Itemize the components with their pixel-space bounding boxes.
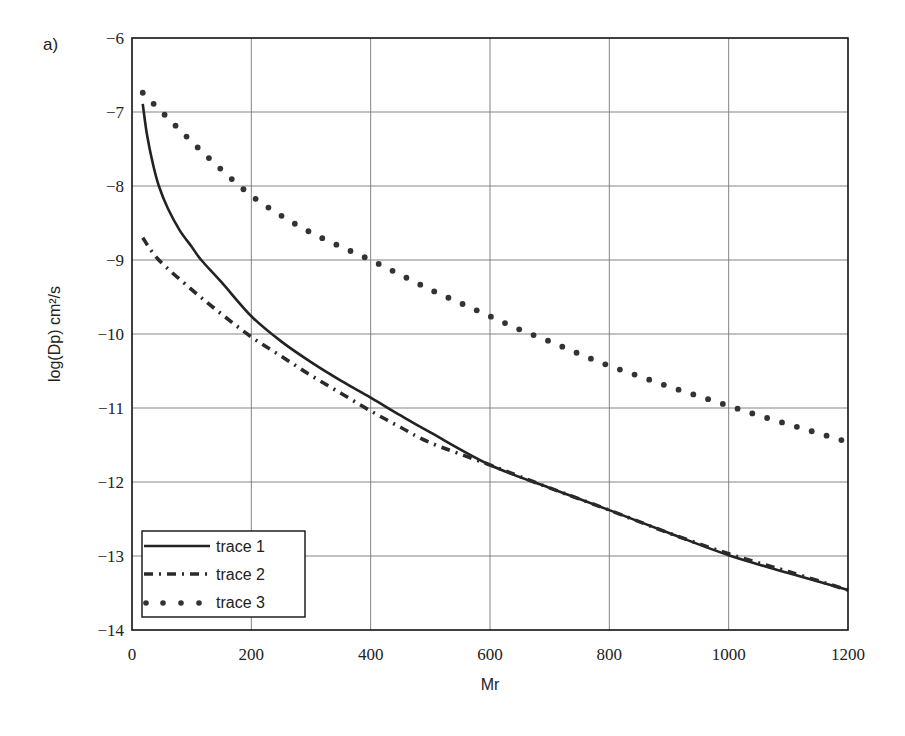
panel-label: a) <box>43 35 58 54</box>
legend: trace 1trace 2trace 3 <box>142 531 305 617</box>
trace-3-point <box>253 196 259 202</box>
legend-label: trace 1 <box>216 538 265 555</box>
trace-3-point <box>390 268 396 274</box>
trace-3-point <box>545 338 551 344</box>
trace-3-point <box>162 112 168 118</box>
trace-3-point <box>488 314 494 320</box>
series-trace-3 <box>140 90 848 443</box>
trace-3-point <box>151 101 157 107</box>
trace-3-point <box>460 301 466 307</box>
trace-3-point <box>602 361 608 367</box>
trace-3-point <box>431 289 437 295</box>
y-axis-label: log(Dp) cm²/s <box>46 286 63 382</box>
x-tick-label: 400 <box>358 645 384 664</box>
trace-3-point <box>516 326 522 332</box>
trace-3-point <box>559 344 565 350</box>
legend-swatch-dot <box>178 600 184 606</box>
trace-3-point <box>348 248 354 254</box>
trace-3-point <box>362 254 368 260</box>
y-tick-label: −11 <box>98 399 124 418</box>
trace-3-point <box>661 382 667 388</box>
trace-3-point <box>646 377 652 383</box>
x-tick-label: 800 <box>597 645 623 664</box>
y-tick-label: −14 <box>97 621 124 640</box>
x-tick-label: 1000 <box>712 645 746 664</box>
y-tick-label: −13 <box>97 547 124 566</box>
x-tick-label: 1200 <box>831 645 865 664</box>
trace-3-point <box>779 420 785 426</box>
trace-3-point <box>839 437 845 443</box>
trace-3-point <box>195 145 201 151</box>
y-tick-label: −10 <box>97 325 124 344</box>
trace-3-point <box>690 391 696 397</box>
trace-3-point <box>217 166 223 172</box>
y-axis-ticks: −6−7−8−9−10−11−12−13−14 <box>97 29 124 640</box>
trace-3-point <box>404 275 410 281</box>
trace-3-point <box>173 123 179 129</box>
x-axis-ticks: 020040060080010001200 <box>128 645 865 664</box>
trace-3-point <box>588 356 594 362</box>
trace-3-point <box>279 213 285 219</box>
trace-3-point <box>206 155 212 161</box>
legend-swatch-dot <box>160 600 166 606</box>
trace-3-point <box>140 90 146 96</box>
trace-3-point <box>333 242 339 248</box>
trace-3-point <box>266 205 272 211</box>
y-tick-label: −7 <box>106 103 125 122</box>
trace-3-point <box>417 282 423 288</box>
trace-3-point <box>764 415 770 421</box>
x-tick-label: 200 <box>239 645 265 664</box>
trace-3-point <box>502 320 508 326</box>
trace-3-point <box>809 428 815 434</box>
trace-3-point <box>705 396 711 402</box>
trace-3-point <box>632 372 638 378</box>
trace-3-point <box>574 350 580 356</box>
series-layer <box>140 90 848 590</box>
trace-3-point <box>229 176 235 182</box>
y-tick-label: −9 <box>106 251 124 270</box>
x-tick-label: 600 <box>477 645 503 664</box>
chart: a) 020040060080010001200 −6−7−8−9−10−11−… <box>0 0 905 736</box>
x-axis-label: Mr <box>481 676 500 693</box>
series-trace-1 <box>143 104 848 590</box>
trace-3-point <box>735 406 741 412</box>
trace-3-point <box>749 411 755 417</box>
trace-3-point <box>319 235 325 241</box>
trace-3-point <box>824 433 830 439</box>
trace-3-point <box>720 401 726 407</box>
trace-3-point <box>474 307 480 313</box>
trace-3-point <box>445 295 451 301</box>
y-tick-label: −8 <box>106 177 124 196</box>
trace-3-point <box>794 424 800 430</box>
trace-3-point <box>531 332 537 338</box>
y-tick-label: −12 <box>97 473 124 492</box>
trace-3-point <box>306 228 312 234</box>
legend-swatch-dot <box>196 600 202 606</box>
trace-3-point <box>617 367 623 373</box>
legend-swatch-dot <box>143 600 149 606</box>
legend-label: trace 2 <box>216 566 265 583</box>
trace-3-point <box>376 261 382 267</box>
trace-3-point <box>292 221 298 227</box>
trace-3-point <box>184 134 190 140</box>
y-tick-label: −6 <box>106 29 124 48</box>
trace-3-point <box>676 387 682 393</box>
legend-label: trace 3 <box>216 594 265 611</box>
x-tick-label: 0 <box>128 645 137 664</box>
trace-3-point <box>241 186 247 192</box>
